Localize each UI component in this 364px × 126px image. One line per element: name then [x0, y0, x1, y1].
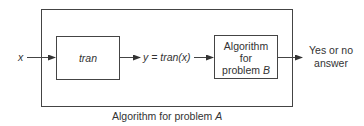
caption-var-a: A — [215, 110, 222, 122]
output-label-line1: Yes or no — [301, 45, 361, 56]
caption-text: Algorithm for problem — [112, 110, 215, 122]
output-label-line2: answer — [301, 58, 361, 69]
outer-box-caption: Algorithm for problem A — [112, 111, 222, 122]
input-x-label: x — [18, 52, 23, 63]
intermediate-y-label: y = tran(x) — [143, 52, 191, 63]
output-label: Yes or no answer — [301, 45, 361, 68]
